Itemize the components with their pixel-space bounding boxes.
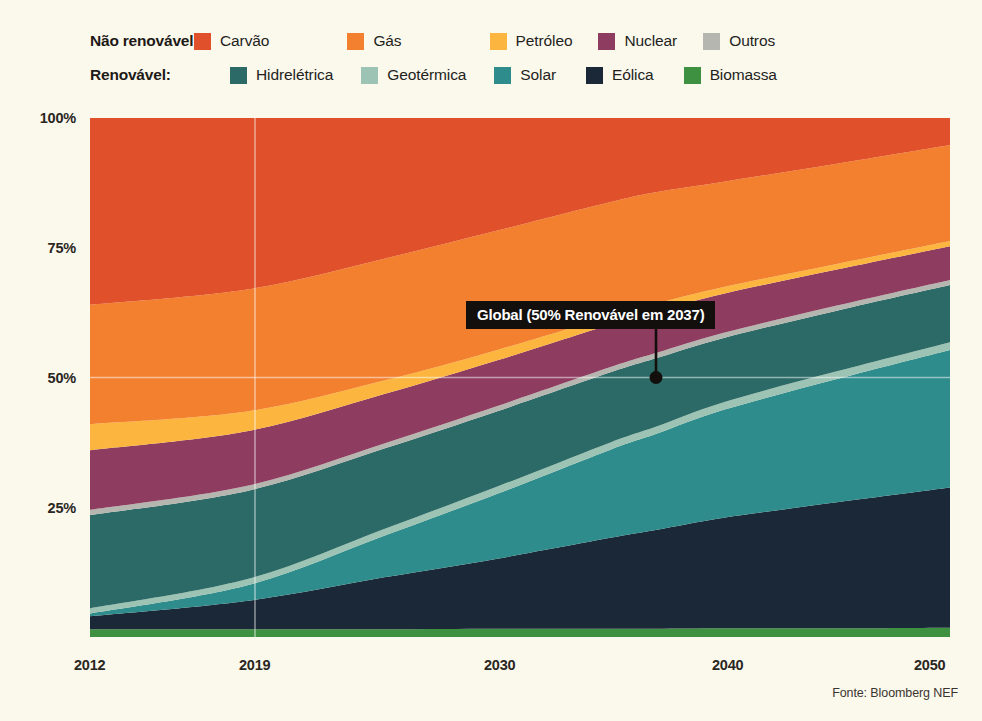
legend-item-outros[interactable]: Outros — [703, 32, 775, 50]
legend-item-geotermica[interactable]: Geotérmica — [361, 66, 466, 84]
chart-plot-area — [90, 118, 950, 637]
legend-label-geotermica: Geotérmica — [387, 66, 466, 84]
legend-item-carvao[interactable]: Carvão — [194, 32, 269, 50]
y-axis-label-75: 75% — [4, 240, 76, 256]
legend-item-petroleo[interactable]: Petróleo — [490, 32, 573, 50]
legend-label-solar: Solar — [520, 66, 556, 84]
x-axis-label-2012: 2012 — [74, 657, 105, 673]
legend-swatch-geotermica — [361, 67, 378, 84]
legend-group-label-renewable: Renovável: — [90, 66, 190, 84]
legend-swatch-nuclear — [598, 33, 615, 50]
y-axis-label-100: 100% — [4, 110, 76, 126]
legend-swatch-petroleo — [490, 33, 507, 50]
x-axis-label-2040: 2040 — [712, 657, 743, 673]
y-axis-label-25: 25% — [4, 500, 76, 516]
legend-swatch-solar — [494, 67, 511, 84]
legend-label-biomassa: Biomassa — [710, 66, 777, 84]
annotation-point-dot — [650, 371, 663, 384]
x-axis-label-2019: 2019 — [239, 657, 270, 673]
legend-swatch-gas — [347, 33, 364, 50]
stacked-area-chart — [90, 118, 950, 637]
legend-swatch-hidreletrica — [230, 67, 247, 84]
chart-source-note: Fonte: Bloomberg NEF — [832, 686, 958, 700]
legend-swatch-carvao — [194, 33, 211, 50]
legend-item-solar[interactable]: Solar — [494, 66, 556, 84]
legend-group-label-nonrenewable: Não renovável: — [90, 32, 190, 50]
legend-label-eolica: Eólica — [612, 66, 654, 84]
legend-label-hidreletrica: Hidrelétrica — [256, 66, 333, 84]
chart-legend: Não renovável: Carvão Gás Petróleo Nucle… — [0, 24, 982, 92]
legend-label-carvao: Carvão — [220, 32, 269, 50]
legend-row-renewable: Renovável: Hidrelétrica Geotérmica Solar… — [0, 58, 982, 92]
x-axis-label-2030: 2030 — [484, 657, 515, 673]
legend-item-gas[interactable]: Gás — [347, 32, 401, 50]
legend-label-outros: Outros — [729, 32, 775, 50]
legend-item-eolica[interactable]: Eólica — [586, 66, 654, 84]
legend-row-nonrenewable: Não renovável: Carvão Gás Petróleo Nucle… — [0, 24, 982, 58]
y-axis-label-50: 50% — [4, 370, 76, 386]
legend-swatch-outros — [703, 33, 720, 50]
legend-label-petroleo: Petróleo — [516, 32, 573, 50]
legend-swatch-biomassa — [684, 67, 701, 84]
chart-page: Não renovável: Carvão Gás Petróleo Nucle… — [0, 0, 982, 721]
annotation-callout: Global (50% Renovável em 2037) — [466, 301, 715, 329]
legend-label-nuclear: Nuclear — [624, 32, 677, 50]
legend-item-biomassa[interactable]: Biomassa — [684, 66, 777, 84]
legend-item-nuclear[interactable]: Nuclear — [598, 32, 677, 50]
legend-label-gas: Gás — [373, 32, 401, 50]
legend-item-hidreletrica[interactable]: Hidrelétrica — [230, 66, 333, 84]
x-axis-label-2050: 2050 — [914, 657, 945, 673]
legend-swatch-eolica — [586, 67, 603, 84]
